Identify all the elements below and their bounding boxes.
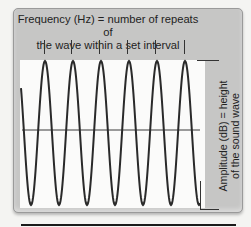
sound-wave — [21, 61, 200, 205]
wave-graphic — [0, 0, 251, 227]
bottom-rule — [21, 224, 236, 226]
amplitude-label: Amplitude (dB) = height of the sound wav… — [216, 66, 242, 206]
amplitude-label-line2: of the sound wave — [229, 80, 241, 191]
frequency-tick-marks — [45, 40, 185, 54]
amplitude-label-line1: Amplitude (dB) = height — [217, 80, 229, 191]
